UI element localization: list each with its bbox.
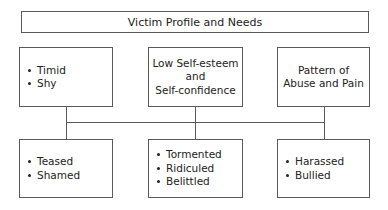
connector-horizontal bbox=[66, 122, 325, 123]
connector-left bbox=[66, 107, 67, 139]
self-esteem-line-2: and bbox=[186, 70, 206, 84]
list-item: Harassed bbox=[286, 155, 344, 169]
self-esteem-line-1: Low Self-esteem bbox=[152, 57, 238, 71]
list-item: Timid bbox=[28, 64, 66, 78]
list-item: Shamed bbox=[28, 169, 80, 183]
connector-middle bbox=[195, 107, 196, 139]
list-item: Shy bbox=[28, 77, 66, 91]
self-esteem-line-3: Self-confidence bbox=[155, 84, 235, 98]
diagram-title: Victim Profile and Needs bbox=[128, 16, 262, 29]
self-esteem-box: Low Self-esteem and Self-confidence bbox=[148, 47, 243, 107]
teased-box: Teased Shamed bbox=[19, 139, 113, 198]
list-item: Teased bbox=[28, 155, 80, 169]
profile-traits-box: Timid Shy bbox=[19, 47, 113, 107]
tormented-list: Tormented Ridiculed Belittled bbox=[149, 148, 222, 189]
connector-right bbox=[324, 107, 325, 139]
tormented-box: Tormented Ridiculed Belittled bbox=[148, 139, 243, 198]
harassed-box: Harassed Bullied bbox=[277, 139, 370, 198]
list-item: Belittled bbox=[157, 175, 222, 189]
list-item: Ridiculed bbox=[157, 162, 222, 176]
harassed-list: Harassed Bullied bbox=[278, 155, 344, 182]
title-box: Victim Profile and Needs bbox=[21, 11, 369, 33]
teased-list: Teased Shamed bbox=[20, 155, 80, 182]
abuse-pattern-box: Pattern of Abuse and Pain bbox=[277, 47, 370, 107]
list-item: Bullied bbox=[286, 169, 344, 183]
abuse-pattern-line-2: Abuse and Pain bbox=[283, 77, 364, 91]
list-item: Tormented bbox=[157, 148, 222, 162]
profile-traits-list: Timid Shy bbox=[20, 64, 66, 91]
abuse-pattern-line-1: Pattern of bbox=[298, 64, 349, 78]
